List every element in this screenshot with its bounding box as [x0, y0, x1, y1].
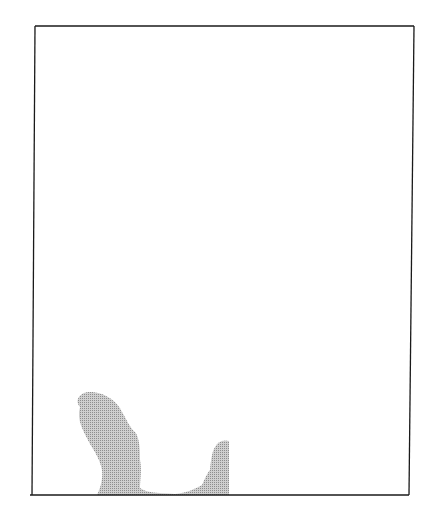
shaded-region [78, 392, 229, 495]
star-chart [0, 0, 424, 512]
